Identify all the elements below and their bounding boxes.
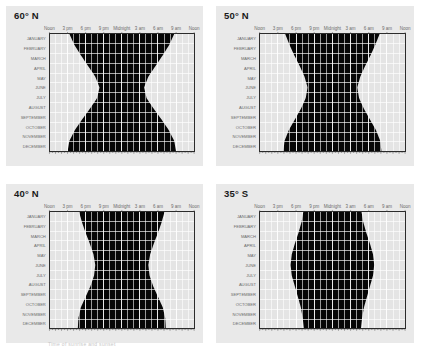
daynight-chart-0: Noon3 pm6 pm9 pmMidnight3 am6 am9 amNoon… [10, 22, 200, 162]
plot-area-0: Noon3 pm6 pm9 pmMidnight3 am6 am9 amNoon… [10, 22, 200, 162]
x-tick-label: 9 pm [309, 26, 319, 31]
y-tick-label: MARCH [241, 234, 256, 239]
y-tick-label: NOVEMBER [233, 134, 257, 139]
y-tick-label: JANUARY [27, 214, 46, 219]
y-tick-label: OCTOBER [26, 125, 46, 130]
daynight-chart-2: Noon3 pm6 pm9 pmMidnight3 am6 am9 amNoon… [10, 200, 200, 339]
x-tick-label: Noon [400, 26, 411, 31]
panel-title-0: 60° N [14, 10, 39, 21]
x-tick-label: 6 am [364, 26, 374, 31]
panel-35s: 35° S Noon3 pm6 pm9 pmMidnight3 am6 am9 … [210, 178, 421, 355]
x-tick-label: Noon [254, 26, 265, 31]
figure-caption: Time of sunrise and sunset [48, 341, 116, 347]
x-tick-label: Midnight [113, 204, 131, 209]
y-tick-label: MARCH [241, 56, 256, 61]
plot-area-1: Noon3 pm6 pm9 pmMidnight3 am6 am9 amNoon… [220, 22, 411, 162]
x-tick-label: 3 am [346, 26, 356, 31]
y-tick-label: AUGUST [29, 282, 46, 287]
y-tick-label: MAY [37, 76, 46, 81]
panel-50n: 50° N Noon3 pm6 pm9 pmMidnight3 am6 am9 … [210, 0, 421, 178]
x-tick-label: Noon [44, 204, 55, 209]
y-tick-label: JUNE [35, 263, 46, 268]
x-tick-label: 3 am [135, 26, 145, 31]
x-tick-label: 9 am [382, 26, 392, 31]
y-tick-label: SEPTEMBER [231, 115, 256, 120]
y-tick-label: DECEMBER [23, 321, 46, 326]
y-tick-label: DECEMBER [233, 321, 256, 326]
x-tick-label: 6 am [153, 204, 163, 209]
panel-grid: 60° N Noon3 pm6 pm9 pmMidnight3 am6 am9 … [0, 0, 421, 355]
x-tick-label: 6 pm [81, 26, 91, 31]
y-tick-label: MAY [247, 76, 256, 81]
y-tick-label: APRIL [244, 243, 257, 248]
y-tick-label: AUGUST [239, 105, 257, 110]
y-tick-label: OCTOBER [26, 302, 46, 307]
x-tick-label: 3 am [135, 204, 145, 209]
y-tick-label: OCTOBER [236, 125, 256, 130]
figure-page: 60° N Noon3 pm6 pm9 pmMidnight3 am6 am9 … [0, 0, 421, 355]
panel-40n: 40° N Noon3 pm6 pm9 pmMidnight3 am6 am9 … [0, 178, 210, 355]
y-tick-label: FEBRUARY [24, 46, 46, 51]
x-tick-label: Noon [254, 204, 265, 209]
x-tick-label: 6 am [153, 26, 163, 31]
x-tick-label: 3 pm [273, 204, 283, 209]
y-tick-label: SEPTEMBER [21, 292, 46, 297]
x-tick-label: 3 am [346, 204, 356, 209]
x-tick-label: 9 pm [309, 204, 319, 209]
x-tick-label: Midnight [324, 26, 342, 31]
y-tick-label: JANUARY [27, 36, 46, 41]
y-tick-label: JANUARY [237, 36, 256, 41]
x-tick-label: 6 pm [291, 26, 301, 31]
x-tick-label: Midnight [113, 26, 131, 31]
panel-60n: 60° N Noon3 pm6 pm9 pmMidnight3 am6 am9 … [0, 0, 210, 178]
x-tick-label: 6 am [364, 204, 374, 209]
x-tick-label: 9 am [171, 204, 181, 209]
y-tick-label: JULY [246, 273, 256, 278]
x-tick-label: 9 am [382, 204, 392, 209]
y-tick-label: MAY [37, 253, 46, 258]
y-tick-label: FEBRUARY [234, 46, 257, 51]
y-tick-label: SEPTEMBER [21, 115, 46, 120]
y-tick-label: JUNE [245, 263, 256, 268]
y-tick-label: JUNE [35, 85, 46, 90]
y-tick-label: JULY [246, 95, 256, 100]
y-tick-label: AUGUST [29, 105, 46, 110]
y-tick-label: MAY [247, 253, 256, 258]
x-tick-label: 3 pm [273, 26, 283, 31]
y-tick-label: FEBRUARY [234, 224, 257, 229]
y-tick-label: NOVEMBER [22, 312, 45, 317]
y-tick-label: APRIL [34, 243, 47, 248]
x-tick-label: Noon [189, 26, 200, 31]
y-tick-label: MARCH [31, 56, 46, 61]
x-tick-label: 3 pm [63, 26, 73, 31]
y-tick-label: NOVEMBER [233, 312, 257, 317]
y-tick-label: APRIL [244, 66, 257, 71]
y-tick-label: FEBRUARY [24, 224, 46, 229]
x-tick-label: Noon [400, 204, 411, 209]
daynight-chart-1: Noon3 pm6 pm9 pmMidnight3 am6 am9 amNoon… [220, 22, 411, 162]
y-tick-label: DECEMBER [23, 144, 46, 149]
plot-area-3: Noon3 pm6 pm9 pmMidnight3 am6 am9 amNoon… [220, 200, 411, 339]
y-tick-label: JULY [36, 95, 46, 100]
y-tick-label: DECEMBER [233, 144, 256, 149]
y-tick-label: JULY [36, 273, 46, 278]
y-tick-label: SEPTEMBER [231, 292, 256, 297]
y-tick-label: MARCH [31, 234, 46, 239]
y-tick-label: OCTOBER [236, 302, 256, 307]
daynight-chart-3: Noon3 pm6 pm9 pmMidnight3 am6 am9 amNoon… [220, 200, 411, 339]
x-tick-label: 9 pm [99, 204, 109, 209]
y-tick-label: JANUARY [237, 214, 256, 219]
x-tick-label: Noon [44, 26, 55, 31]
x-tick-label: 9 pm [99, 26, 109, 31]
panel-title-1: 50° N [224, 10, 249, 21]
x-tick-label: 9 am [171, 26, 181, 31]
plot-area-2: Noon3 pm6 pm9 pmMidnight3 am6 am9 amNoon… [10, 200, 200, 339]
x-tick-label: Midnight [324, 204, 342, 209]
panel-title-3: 35° S [224, 188, 248, 199]
panel-title-2: 40° N [14, 188, 39, 199]
y-tick-label: AUGUST [239, 282, 257, 287]
x-tick-label: 6 pm [81, 204, 91, 209]
x-tick-label: 3 pm [63, 204, 73, 209]
x-tick-label: 6 pm [291, 204, 301, 209]
y-tick-label: JUNE [245, 85, 256, 90]
